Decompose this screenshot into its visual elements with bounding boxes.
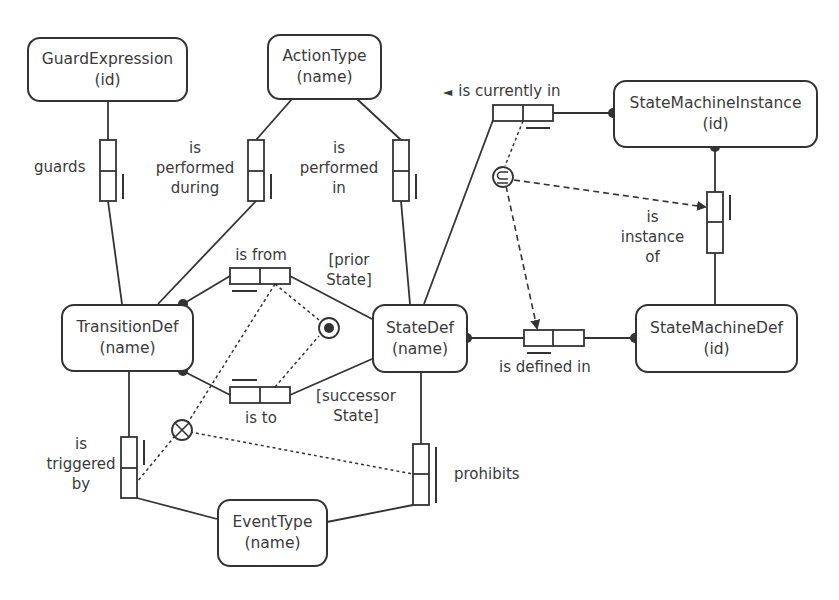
fact-type-is-currently-in[interactable] bbox=[493, 105, 553, 121]
reading-is-from: is from bbox=[226, 245, 296, 265]
reading-guards: guards bbox=[34, 157, 85, 177]
connector-transition-isto bbox=[183, 371, 230, 395]
connector-guards-transition bbox=[108, 201, 122, 304]
role-name-prior-state: [prior State] bbox=[314, 250, 384, 290]
entity-ref-mode: (id) bbox=[702, 114, 728, 135]
entity-name: ActionType bbox=[282, 46, 366, 67]
reading-direction-arrow-icon: ◄ bbox=[443, 85, 452, 99]
reading-prohibits: prohibits bbox=[454, 464, 520, 484]
reading-is-currently-in: ◄is currently in bbox=[443, 81, 561, 102]
entity-name: StateDef bbox=[386, 318, 454, 339]
entity-name: StateMachineInstance bbox=[630, 93, 802, 114]
fact-type-prohibits[interactable] bbox=[413, 444, 429, 505]
entity-name: StateMachineDef bbox=[650, 318, 783, 339]
connector-currently-state bbox=[424, 120, 493, 304]
entity-action-type[interactable]: ActionType (name) bbox=[267, 34, 382, 100]
fact-type-is-defined-in[interactable] bbox=[524, 330, 584, 346]
entity-ref-mode: (id) bbox=[94, 70, 120, 91]
fact-type-is-triggered-by[interactable] bbox=[121, 437, 137, 498]
reading-is-to: is to bbox=[226, 408, 296, 428]
entity-ref-mode: (name) bbox=[244, 533, 300, 554]
connector-action-during bbox=[256, 99, 292, 140]
entity-state-machine-def[interactable]: StateMachineDef (id) bbox=[635, 304, 798, 373]
entity-ref-mode: (id) bbox=[703, 339, 729, 360]
entity-event-type[interactable]: EventType (name) bbox=[217, 499, 328, 567]
entity-ref-mode: (name) bbox=[99, 338, 155, 359]
fact-type-performed-during[interactable] bbox=[248, 140, 264, 201]
connector-triggered-event bbox=[137, 498, 217, 519]
reading-performed-in: is performed in bbox=[294, 138, 384, 198]
entity-guard-expression[interactable]: GuardExpression (id) bbox=[27, 37, 188, 102]
role-name-successor-state: [successor State] bbox=[310, 386, 402, 426]
fact-type-is-to[interactable] bbox=[230, 387, 290, 403]
exclusion-constraint-icon[interactable] bbox=[172, 420, 192, 440]
fact-type-performed-in[interactable] bbox=[393, 140, 409, 201]
external-uniqueness-constraint-icon[interactable] bbox=[319, 318, 339, 338]
entity-name: GuardExpression bbox=[42, 49, 173, 70]
entity-ref-mode: (name) bbox=[392, 339, 448, 360]
reading-performed-during: is performed during bbox=[150, 138, 240, 198]
connector-action-in bbox=[357, 99, 401, 140]
fact-type-is-instance-of[interactable] bbox=[707, 192, 723, 253]
connector-in-state bbox=[401, 201, 410, 304]
entity-name: TransitionDef bbox=[77, 317, 179, 338]
entity-name: EventType bbox=[232, 512, 312, 533]
reading-is-triggered-by: is triggered by bbox=[46, 434, 116, 494]
reading-is-defined-in: is defined in bbox=[499, 357, 591, 377]
entity-state-machine-instance[interactable]: StateMachineInstance (id) bbox=[613, 80, 818, 148]
entity-ref-mode: (name) bbox=[296, 67, 352, 88]
connector-transition-isfrom bbox=[183, 276, 230, 304]
subset-constraint-icon[interactable] bbox=[493, 167, 513, 187]
entity-state-def[interactable]: StateDef (name) bbox=[372, 304, 468, 373]
fact-type-guards[interactable] bbox=[100, 140, 116, 201]
entity-transition-def[interactable]: TransitionDef (name) bbox=[61, 304, 194, 372]
connector-prohibits-event bbox=[327, 505, 413, 522]
reading-is-instance-of: is instance of bbox=[615, 207, 690, 267]
fact-type-is-from[interactable] bbox=[230, 268, 290, 284]
